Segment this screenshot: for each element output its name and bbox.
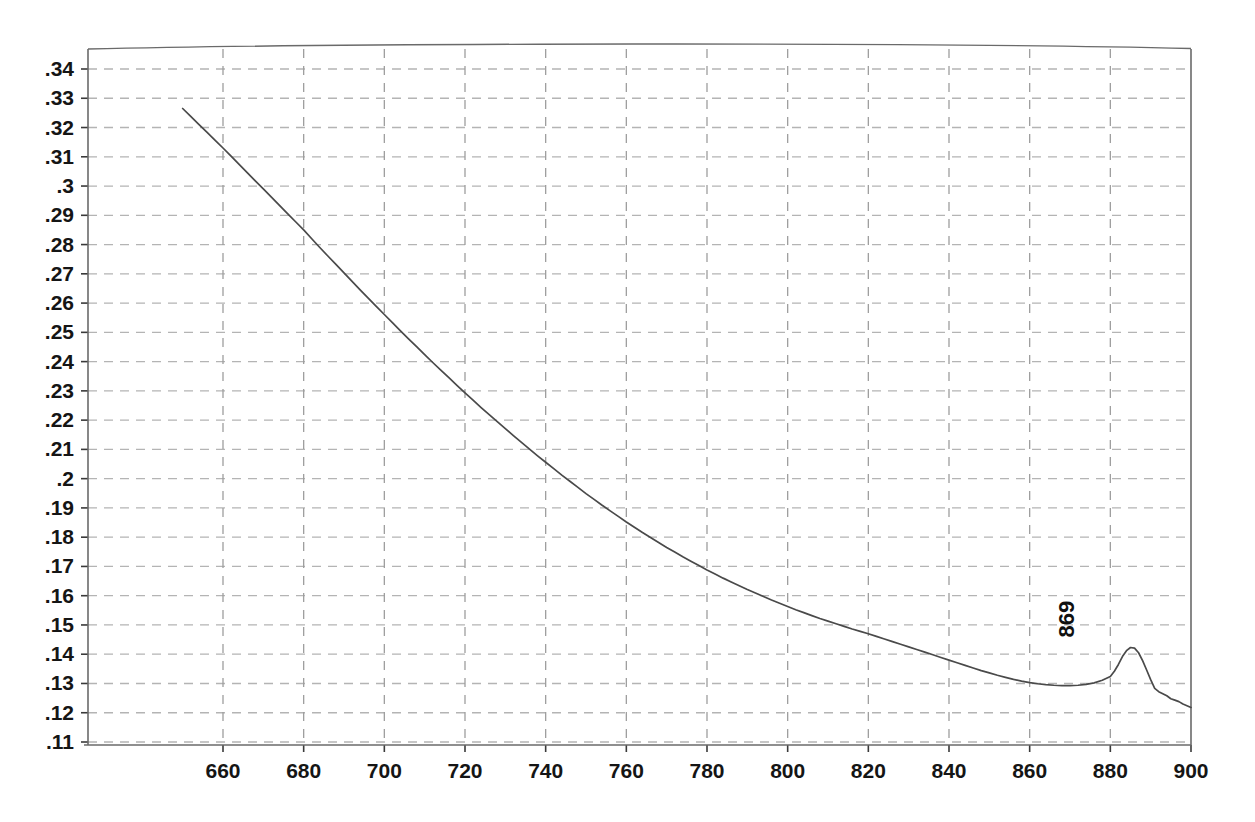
y-tick-label: .25 [45,320,75,343]
y-tick-label: .26 [45,291,74,314]
y-tick-label: .32 [45,116,74,139]
x-tick-label: 740 [528,759,563,782]
y-tick-label: .19 [45,496,74,519]
x-tick-label: 660 [205,759,240,782]
y-tick-label: .29 [45,203,74,226]
horizontal-gridlines [88,69,1191,742]
x-tick-label: 680 [286,759,321,782]
x-tick-label: 860 [1012,759,1047,782]
x-tick-label: 780 [689,759,724,782]
y-tick-label: .24 [45,350,75,373]
frame-top [88,44,1191,49]
x-tick-label: 760 [609,759,644,782]
y-tick-label: .28 [45,233,75,256]
series-line [183,109,1191,708]
x-tick-label: 700 [367,759,402,782]
x-tick-label: 820 [851,759,886,782]
data-series-group [183,109,1191,708]
plot-frame [81,44,1191,752]
y-tick-label: .11 [46,730,74,753]
y-tick-label: .18 [45,525,75,548]
y-tick-label: .16 [45,584,74,607]
x-tick-label: 880 [1093,759,1128,782]
y-tick-label: .34 [45,57,75,80]
y-tick-label: .13 [45,671,74,694]
y-tick-label: .14 [45,642,75,665]
annotation-group: 869 [1054,601,1079,638]
x-tick-label: 840 [931,759,966,782]
y-tick-label: .33 [45,86,74,109]
y-tick-label: .12 [45,701,74,724]
x-tick-label: 720 [447,759,482,782]
y-tick-label: .2 [56,467,74,490]
y-tick-label: .21 [45,437,75,460]
peak-label-869: 869 [1054,601,1079,638]
x-axis-tick-labels: 660680700720740760780800820840860880900 [205,759,1208,782]
y-tick-label: .15 [45,613,75,636]
plot-area: .34.33.32.31.3.29.28.27.26.25.24.23.22.2… [0,0,1255,822]
y-tick-label: .27 [45,262,74,285]
x-tick-label: 900 [1173,759,1208,782]
x-tick-label: 800 [770,759,805,782]
y-tick-label: .3 [56,174,74,197]
y-tick-label: .23 [45,379,74,402]
y-tick-label: .31 [45,145,75,168]
y-axis-tick-labels: .34.33.32.31.3.29.28.27.26.25.24.23.22.2… [45,57,75,753]
y-tick-label: .22 [45,408,74,431]
spectrum-chart: .34.33.32.31.3.29.28.27.26.25.24.23.22.2… [0,0,1255,822]
y-tick-label: .17 [45,554,74,577]
vertical-gridlines [223,49,1110,745]
